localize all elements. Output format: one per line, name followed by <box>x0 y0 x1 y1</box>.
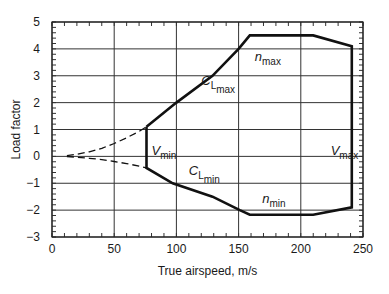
y-tick-label: 3 <box>33 69 40 83</box>
y-tick-labels: −3−2−1012345 <box>26 15 40 244</box>
x-tick-label: 100 <box>166 242 186 256</box>
x-tick-label: 0 <box>49 242 56 256</box>
flight-envelope-line <box>147 35 352 214</box>
y-tick-label: −3 <box>26 230 40 244</box>
annotation-label: CLmax <box>201 73 235 95</box>
x-tick-label: 250 <box>353 242 373 256</box>
x-tick-label: 200 <box>291 242 311 256</box>
annotation-label: nmin <box>262 191 285 209</box>
y-tick-label: 4 <box>33 42 40 56</box>
x-tick-label: 150 <box>229 242 249 256</box>
annotation-label: nmax <box>255 49 281 67</box>
annotation-label: Vmax <box>331 143 359 161</box>
x-tick-labels: 050100150200250 <box>49 242 374 256</box>
annotation-label: CLmin <box>189 163 220 185</box>
grid <box>52 22 363 237</box>
annotation-label: Vmin <box>152 143 177 161</box>
y-tick-label: −1 <box>26 176 40 190</box>
dashed-stall-curve <box>67 127 147 156</box>
x-tick-label: 50 <box>108 242 122 256</box>
y-tick-label: 1 <box>33 123 40 137</box>
y-tick-label: 2 <box>33 96 40 110</box>
v-n-diagram: 050100150200250 −3−2−1012345 CLmaxnmaxVm… <box>0 0 389 294</box>
y-tick-label: 0 <box>33 149 40 163</box>
y-axis-label: Load factor <box>9 99 23 159</box>
dashed-stall-curve <box>67 157 147 168</box>
x-axis-label: True airspeed, m/s <box>158 264 258 278</box>
y-tick-label: 5 <box>33 15 40 29</box>
y-tick-label: −2 <box>26 203 40 217</box>
series-layer <box>67 35 352 214</box>
